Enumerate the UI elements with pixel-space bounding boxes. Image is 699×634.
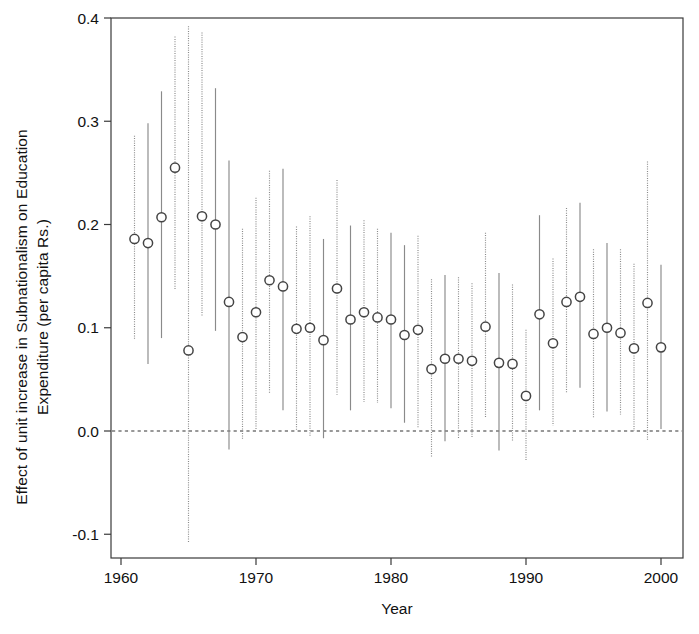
data-point: 1977: 0.108 — [346, 315, 355, 324]
data-point: 1988: 0.066 — [494, 358, 503, 367]
data-point: 1965: 0.078 — [184, 346, 193, 355]
x-tick-label: 1980 — [374, 569, 409, 586]
data-point: 1989: 0.065 — [508, 359, 517, 368]
data-point: 1984: 0.07 — [440, 354, 449, 363]
y-tick-label: 0.4 — [77, 10, 99, 27]
y-tick-label: -0.1 — [72, 526, 99, 543]
x-tick-label: 2000 — [644, 569, 679, 586]
x-axis: 19601970198019902000 — [104, 558, 679, 586]
data-point: 1966: 0.208 — [197, 212, 206, 221]
data-point: 1974: 0.1 — [305, 323, 314, 332]
data-point: 1994: 0.13 — [575, 292, 584, 301]
data-point: 1996: 0.1 — [602, 323, 611, 332]
data-point: 1992: 0.085 — [548, 339, 557, 348]
y-tick-label: 0.0 — [77, 423, 99, 440]
data-point: 1997: 0.095 — [616, 328, 625, 337]
data-point: 1999: 0.124 — [643, 298, 652, 307]
data-point: 1967: 0.2 — [211, 220, 220, 229]
data-point: 2000: 0.081 — [656, 343, 665, 352]
data-point: 1986: 0.068 — [467, 356, 476, 365]
data-point: 1975: 0.088 — [319, 336, 328, 345]
error-bars — [135, 26, 662, 542]
data-point: 1972: 0.14 — [278, 282, 287, 291]
data-point: 1976: 0.138 — [332, 284, 341, 293]
data-point: 1980: 0.108 — [386, 315, 395, 324]
x-tick-label: 1970 — [239, 569, 274, 586]
data-point: 1981: 0.093 — [400, 330, 409, 339]
y-tick-label: 0.1 — [77, 319, 99, 336]
data-point: 1985: 0.07 — [454, 354, 463, 363]
data-point: 1993: 0.125 — [562, 297, 571, 306]
data-point: 1990: 0.034 — [521, 391, 530, 400]
data-point: 1973: 0.099 — [292, 324, 301, 333]
data-point: 1983: 0.06 — [427, 364, 436, 373]
data-point: 1963: 0.207 — [157, 213, 166, 222]
data-point: 1968: 0.125 — [224, 297, 233, 306]
data-point: 1964: 0.255 — [170, 163, 179, 172]
data-point: 1962: 0.182 — [143, 238, 152, 247]
data-point: 1982: 0.098 — [413, 325, 422, 334]
data-point: 1979: 0.11 — [373, 313, 382, 322]
data-point: 1998: 0.08 — [629, 344, 638, 353]
y-tick-label: 0.2 — [77, 216, 99, 233]
data-point: 1995: 0.094 — [589, 329, 598, 338]
data-point: 1978: 0.115 — [359, 308, 368, 317]
y-axis: -0.10.00.10.20.30.4 — [72, 10, 111, 543]
x-tick-label: 1990 — [509, 569, 544, 586]
data-point: 1961: 0.186 — [130, 234, 139, 243]
data-point: 1991: 0.113 — [535, 310, 544, 319]
chart-figure: Effect of unit increase in Subnationalis… — [0, 0, 699, 634]
data-point: 1969: 0.091 — [238, 332, 247, 341]
x-axis-label: Year — [111, 600, 683, 618]
plot-area: -0.10.00.10.20.30.4196019701980199020001… — [0, 0, 699, 634]
data-point: 1970: 0.115 — [251, 308, 260, 317]
plot-frame — [111, 18, 683, 558]
data-point: 1987: 0.101 — [481, 322, 490, 331]
data-points: 1961: 0.1861962: 0.1821963: 0.2071964: 0… — [130, 163, 666, 400]
chart-svg: -0.10.00.10.20.30.4196019701980199020001… — [0, 0, 699, 634]
data-point: 1971: 0.146 — [265, 276, 274, 285]
x-tick-label: 1960 — [104, 569, 139, 586]
y-tick-label: 0.3 — [77, 113, 99, 130]
